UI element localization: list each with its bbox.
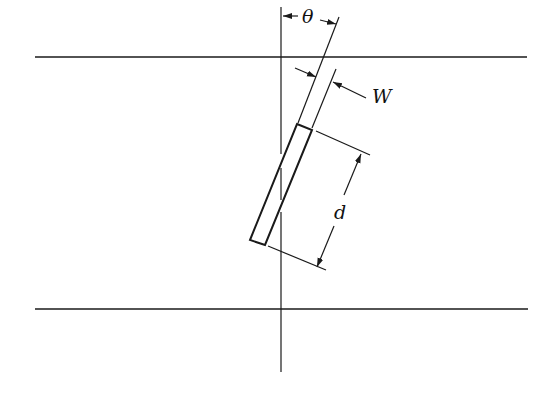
plate-left-extension-line bbox=[298, 17, 339, 123]
width-dimension: W bbox=[295, 68, 393, 107]
theta-dimension: θ bbox=[283, 5, 336, 27]
width-label: W bbox=[372, 85, 393, 107]
length-label: d bbox=[334, 201, 346, 223]
theta-label: θ bbox=[302, 5, 314, 27]
tilted-plate-diagram: θ W d bbox=[0, 0, 553, 400]
